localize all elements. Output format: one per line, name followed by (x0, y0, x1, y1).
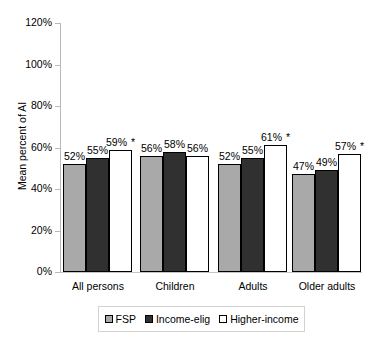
bar-chart: Mean percent of AI 0%20%40%60%80%100%120… (0, 0, 384, 342)
bar (241, 158, 264, 272)
x-axis-line (60, 272, 362, 273)
significance-marker: * (282, 131, 290, 143)
legend-swatch-icon (219, 315, 227, 323)
y-axis-tick-label: 0% (8, 266, 52, 277)
y-axis-tick-label: 40% (8, 183, 52, 194)
legend-item-label: FSP (116, 314, 136, 325)
bar (338, 154, 361, 272)
legend-item-label: Income-elig (156, 314, 210, 325)
bar (109, 150, 132, 272)
bar (218, 164, 241, 272)
legend-swatch-icon (145, 315, 153, 323)
chart-legend: FSPIncome-eligHigher-income (98, 306, 305, 332)
legend-item-label: Higher-income (230, 314, 298, 325)
legend-swatch-icon (105, 315, 113, 323)
plot-area: 52%55%59% *56%58%56%52%55%61% *47%49%57%… (61, 23, 362, 272)
bar (315, 170, 338, 272)
bar (264, 145, 287, 272)
bar (292, 174, 315, 272)
bar (63, 164, 86, 272)
bar (140, 156, 163, 272)
bar-value-label: 57% * (331, 141, 368, 152)
legend-item[interactable]: FSP (105, 314, 136, 325)
y-axis-tick-label: 120% (8, 17, 52, 28)
y-axis-tick-label: 80% (8, 100, 52, 111)
y-axis-tick-label: 100% (8, 59, 52, 70)
x-axis-category-label: Older adults (278, 280, 376, 292)
bar-group: 56%58%56% (140, 23, 210, 272)
significance-marker: * (356, 140, 364, 152)
bar-value-label: 61% * (257, 132, 294, 143)
y-axis-tick-label: 20% (8, 225, 52, 236)
legend-item[interactable]: Income-elig (145, 314, 210, 325)
bar (163, 152, 186, 272)
legend-item[interactable]: Higher-income (219, 314, 298, 325)
bar (186, 156, 209, 272)
y-axis-tick-label: 60% (8, 142, 52, 153)
bar-group: 47%49%57% * (292, 23, 362, 272)
bar-group: 52%55%59% * (63, 23, 133, 272)
bar (86, 158, 109, 272)
bar-group: 52%55%61% * (218, 23, 288, 272)
